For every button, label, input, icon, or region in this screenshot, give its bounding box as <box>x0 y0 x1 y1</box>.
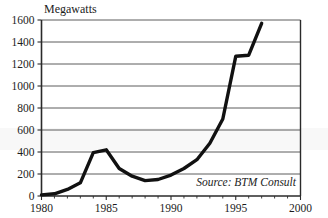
y-tick-label-200: 200 <box>17 168 35 180</box>
y-tick-label-0: 0 <box>29 190 35 202</box>
y-tick-label-600: 600 <box>17 124 35 136</box>
x-tick-label-1990: 1990 <box>160 202 183 214</box>
x-tick-label-2000: 2000 <box>289 202 312 214</box>
scan-band-artifact <box>0 128 328 150</box>
y-tick-label-1600: 1600 <box>12 14 35 26</box>
y-tick-label-1200: 1200 <box>12 58 35 70</box>
y-tick-label-1400: 1400 <box>12 36 35 48</box>
chart-title: Megawatts <box>44 2 97 16</box>
x-tick-label-1995: 1995 <box>224 202 247 214</box>
x-tick-label-1985: 1985 <box>95 202 118 214</box>
source-note: Source: BTM Consult <box>196 176 297 188</box>
chart-container: 02004006008001000120014001600 1980198519… <box>0 0 328 218</box>
y-tick-label-800: 800 <box>17 102 35 114</box>
megawatts-line-chart: 02004006008001000120014001600 1980198519… <box>0 0 328 218</box>
y-tick-label-400: 400 <box>17 146 35 158</box>
x-tick-label-1980: 1980 <box>30 202 53 214</box>
y-tick-label-1000: 1000 <box>12 80 35 92</box>
